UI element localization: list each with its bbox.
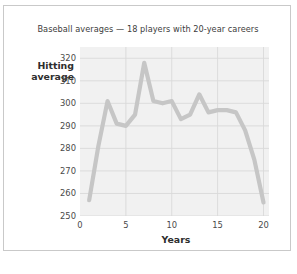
x-tick-label: 15 — [207, 220, 229, 230]
chart-card: Baseball averages — 18 players with 20-y… — [3, 5, 291, 251]
y-tick-label: 260 — [50, 188, 76, 198]
y-tick-label: 310 — [50, 76, 76, 86]
y-tick-label: 270 — [50, 166, 76, 176]
y-tick-label: 320 — [50, 53, 76, 63]
x-axis-title: Years — [80, 234, 272, 245]
chart-title: Baseball averages — 18 players with 20-y… — [4, 24, 292, 34]
chart-figure: Baseball averages — 18 players with 20-y… — [4, 6, 292, 252]
x-tick-label: 0 — [69, 220, 91, 230]
y-tick-label: 290 — [50, 121, 76, 131]
x-tick-label: 20 — [252, 220, 274, 230]
y-tick-label: 280 — [50, 143, 76, 153]
x-tick-label: 5 — [115, 220, 137, 230]
x-tick-label: 10 — [161, 220, 183, 230]
line-chart-svg — [80, 47, 269, 216]
plot-background — [80, 47, 269, 216]
y-tick-label: 300 — [50, 98, 76, 108]
plot-area: 250260270280290300310320 05101520 — [80, 47, 269, 216]
